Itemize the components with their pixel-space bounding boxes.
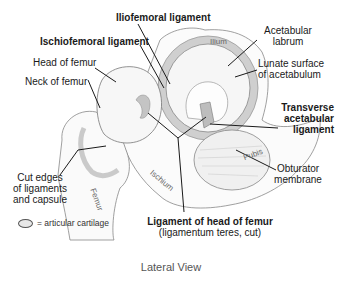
label-cut-edges: Cut edges of ligaments and capsule (10, 172, 70, 205)
bone-label-ilium: Ilium (210, 37, 227, 46)
label-neck-of-femur: Neck of femur (25, 76, 87, 87)
obturator-membrane-shape (194, 130, 270, 190)
femoral-head-shape (97, 67, 162, 143)
legend-text: = articular cartilage (37, 218, 109, 228)
label-obturator-membrane: Obturator membrane (268, 163, 328, 185)
figure-caption: Lateral View (0, 261, 342, 273)
label-acetabular-labrum: Acetabular labrum (258, 25, 318, 47)
label-transverse-acetabular-ligament: Transverse acetabular ligament (262, 102, 334, 135)
label-ligament-of-head-of-femur: Ligament of head of femur (ligamentum te… (120, 216, 300, 238)
label-ischiofemoral-ligament: Ischiofemoral ligament (40, 36, 149, 47)
label-lunate-surface: Lunate surface of acetabulum (258, 58, 324, 80)
label-iliofemoral-ligament: Iliofemoral ligament (116, 12, 210, 23)
label-head-of-femur: Head of femur (33, 57, 96, 68)
articular-cartilage-legend-icon (18, 219, 33, 228)
